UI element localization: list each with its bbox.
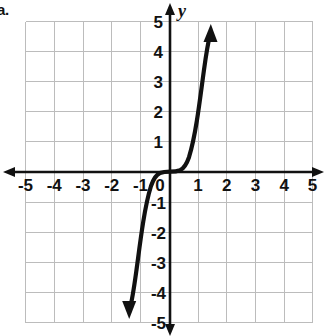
y-tick-label: 3 [154, 73, 163, 92]
curve-upper-arrowhead [204, 24, 218, 42]
y-tick-label: 2 [154, 103, 163, 122]
x-axis-left-arrowhead [3, 167, 15, 177]
y-tick-label: -4 [151, 284, 167, 303]
x-tick-label: -5 [18, 176, 33, 195]
y-tick-label: 1 [154, 133, 163, 152]
x-tick-label: 4 [279, 176, 289, 195]
x-tick-label: 3 [251, 176, 260, 195]
x-tick-labels: -5 -4 -3 -2 -1 1 2 3 4 5 [18, 176, 317, 195]
graph-figure: a. [0, 0, 326, 336]
y-tick-label: 5 [154, 13, 163, 32]
x-tick-label: 1 [193, 176, 202, 195]
curve-lower-arrowhead [122, 301, 136, 319]
x-tick-label: -4 [47, 176, 63, 195]
y-axis-bottom-arrowhead [165, 324, 175, 336]
y-tick-label: -2 [151, 224, 166, 243]
x-tick-label: -1 [133, 176, 148, 195]
y-axis-label: y [176, 1, 187, 21]
coordinate-plane: -5 -4 -3 -2 -1 1 2 3 4 5 0 5 4 3 2 1 -1 … [0, 0, 326, 336]
x-tick-label: -2 [104, 176, 119, 195]
x-tick-label: -3 [75, 176, 90, 195]
y-tick-label: 4 [154, 43, 164, 62]
y-tick-label: -1 [151, 194, 166, 213]
y-axis-top-arrowhead [165, 3, 175, 15]
y-tick-label: -3 [151, 254, 166, 273]
y-tick-label: -5 [151, 314, 166, 333]
origin-label: 0 [155, 176, 164, 195]
x-tick-label: 2 [222, 176, 231, 195]
x-tick-label: 5 [308, 176, 317, 195]
